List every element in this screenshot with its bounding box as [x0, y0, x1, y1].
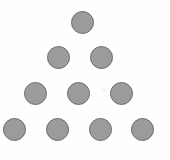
circle-r2-c2[interactable]: [90, 46, 113, 69]
image-speck-artifact: [101, 88, 106, 92]
circle-r4-c2[interactable]: [46, 118, 69, 141]
figure-canvas: [0, 0, 170, 160]
circle-r1-c1[interactable]: [71, 11, 94, 34]
circle-r3-c1[interactable]: [24, 82, 47, 105]
circle-r3-c2[interactable]: [67, 82, 90, 105]
circle-r4-c1[interactable]: [3, 118, 26, 141]
circle-r4-c3[interactable]: [89, 118, 112, 141]
circle-r2-c1[interactable]: [47, 46, 70, 69]
circle-r3-c3[interactable]: [110, 82, 133, 105]
circle-r4-c4[interactable]: [131, 118, 154, 141]
